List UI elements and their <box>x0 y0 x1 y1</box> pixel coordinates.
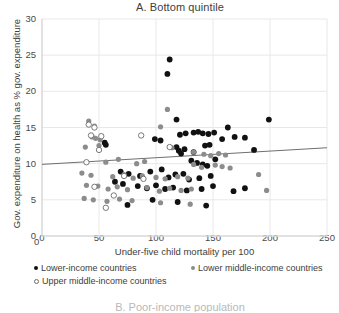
legend-marker-dot-icon <box>191 266 195 270</box>
legend-item-lower-income: Lower-income countries <box>34 263 137 273</box>
points-lower-income <box>102 57 272 209</box>
gridlines <box>42 19 327 236</box>
legend-row-1: Lower-income countries Lower middle-inco… <box>34 263 334 276</box>
chart-legend: Lower-income countries Lower middle-inco… <box>34 263 334 289</box>
chart-figure: A. Bottom quintile Gov. expenditure on h… <box>0 0 339 313</box>
legend-row-2: Upper middle-income countries <box>34 276 334 289</box>
legend-item-upper-middle-income: Upper middle-income countries <box>34 276 167 286</box>
legend-label-lower-income: Lower-income countries <box>41 263 137 273</box>
legend-item-lower-middle-income: Lower middle-income countries <box>191 263 323 273</box>
legend-marker-circle-icon <box>34 279 39 284</box>
legend-label-lower-middle-income: Lower middle-income countries <box>198 263 323 273</box>
points-upper-middle-income <box>84 122 173 211</box>
next-panel-title: B. Poor-income population <box>60 301 300 312</box>
legend-label-upper-middle-income: Upper middle-income countries <box>42 276 167 286</box>
legend-marker-dot-icon <box>34 266 38 270</box>
